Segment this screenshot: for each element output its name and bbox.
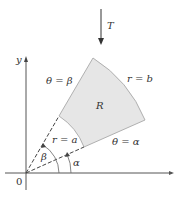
region-label: R [95,100,104,111]
upper-ray-label: θ = β [46,75,73,86]
lower-ray-label: θ = α [112,136,140,147]
x-axis-arrow-icon [169,171,174,175]
y-axis-arrow-icon [24,56,28,62]
angle-alpha-arrow-icon [65,152,70,157]
origin-label: 0 [16,176,22,187]
polar-region-diagram: T y 0 R r = b θ = β r = a θ = α β α [0,0,174,197]
outer-arc-label: r = b [127,73,153,84]
beta-angle-label: β [40,151,47,162]
alpha-angle-label: α [73,157,80,168]
angle-alpha-arc [67,154,71,173]
t-arrow-head-icon [98,38,104,45]
inner-arc-label: r = a [52,134,78,145]
y-axis-label: y [15,54,22,65]
t-label: T [107,20,115,31]
